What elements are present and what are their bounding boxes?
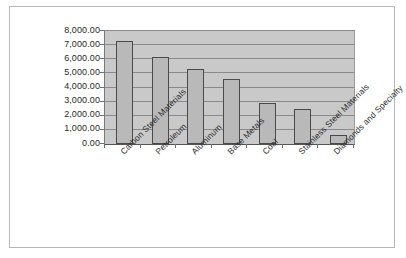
bar (259, 103, 276, 144)
bar (187, 69, 204, 144)
y-axis-tick-label: 5,000.00 (36, 68, 100, 77)
gridline (105, 30, 354, 31)
y-axis-tick-label: 6,000.00 (36, 54, 100, 63)
y-axis-tick-label: 7,000.00 (36, 40, 100, 49)
y-axis-tick-label: 0.00 (36, 139, 100, 148)
gridline (105, 58, 354, 59)
y-axis-tick-label: 4,000.00 (36, 82, 100, 91)
y-axis: 0.001,000.002,000.003,000.004,000.005,00… (36, 23, 100, 151)
y-axis-tick-label: 1,000.00 (36, 124, 100, 133)
bar (223, 79, 240, 144)
bar (330, 135, 347, 144)
y-axis-tick-label: 2,000.00 (36, 110, 100, 119)
gridline (105, 72, 354, 73)
y-axis-tick-label: 3,000.00 (36, 96, 100, 105)
y-axis-tick-label: 8,000.00 (36, 26, 100, 35)
chart-frame: 0.001,000.002,000.003,000.004,000.005,00… (9, 6, 395, 248)
bar (294, 109, 311, 144)
bar (116, 41, 133, 144)
bar (152, 57, 169, 144)
gridline (105, 44, 354, 45)
plot-area (104, 30, 355, 145)
